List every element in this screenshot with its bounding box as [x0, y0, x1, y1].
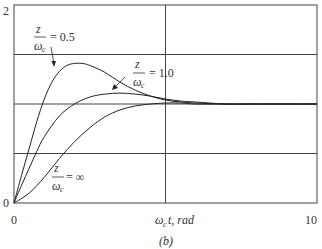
annotation-z-0.5: z ω c = 0.5	[34, 22, 75, 67]
x-label-rest: t, rad	[168, 213, 195, 227]
svg-text:= ∞: = ∞	[66, 170, 84, 184]
arrow-1.0	[115, 77, 125, 87]
y-tick-0: 0	[3, 196, 9, 210]
annotation-z-inf: z ω c = ∞	[52, 161, 84, 194]
svg-text:z: z	[134, 57, 140, 71]
svg-text:z: z	[53, 161, 59, 175]
annotation-z-1.0: z ω c = 1.0	[112, 57, 174, 90]
x-tick-10: 10	[305, 213, 317, 227]
svg-text:c: c	[141, 81, 145, 90]
step-response-chart: 2 0 0 10 ω c t, rad (b) z ω c = 0.5 z ω …	[0, 0, 322, 249]
figure-caption: (b)	[159, 234, 173, 248]
svg-text:c: c	[42, 45, 46, 54]
svg-text:c: c	[60, 185, 64, 194]
svg-text:= 1.0: = 1.0	[149, 66, 174, 80]
svg-text:z: z	[35, 22, 41, 36]
x-label-sub: c	[163, 220, 167, 229]
y-tick-2: 2	[3, 4, 9, 18]
svg-text:= 0.5: = 0.5	[50, 30, 75, 44]
x-axis-label: ω c t, rad	[155, 213, 195, 229]
x-tick-0: 0	[11, 213, 17, 227]
